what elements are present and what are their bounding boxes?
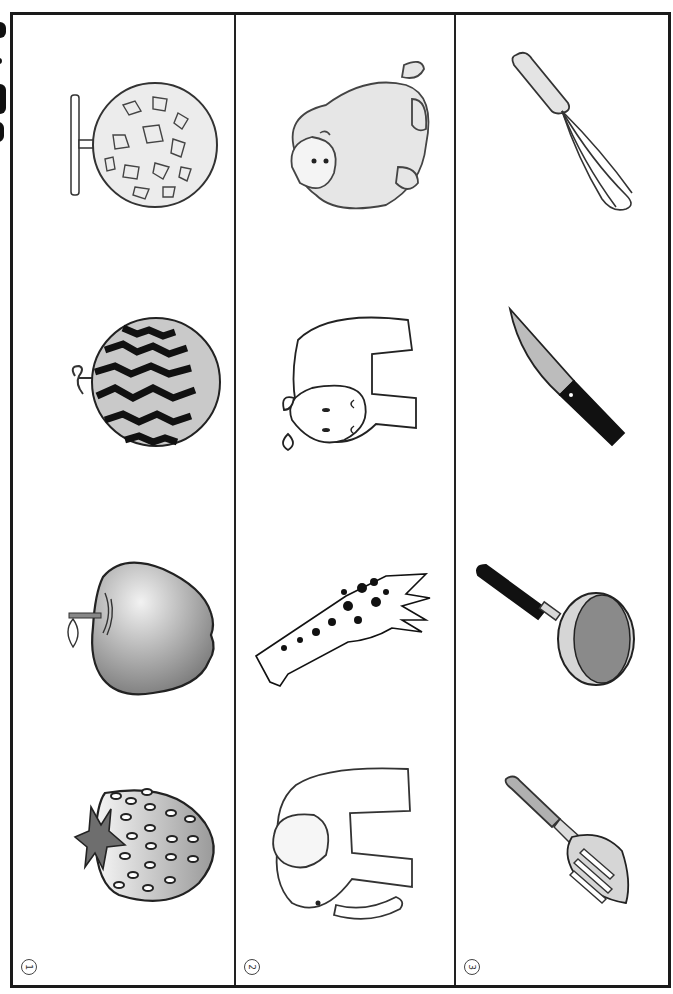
gorilla-icon: [236, 35, 455, 275]
frying-pan-picture[interactable]: [456, 525, 670, 765]
gorilla-picture[interactable]: [236, 35, 455, 275]
watermelon-picture[interactable]: [13, 270, 232, 510]
apple-picture[interactable]: [13, 515, 232, 755]
strawberry-picture[interactable]: [13, 745, 232, 985]
knife-icon: [456, 285, 670, 525]
giraffe-picture[interactable]: [236, 530, 455, 770]
column-number-3: 3: [464, 959, 480, 975]
frying-pan-icon: [456, 525, 670, 765]
column-animals: 2: [234, 15, 455, 985]
strawberry-icon: [13, 745, 232, 985]
column-fruits: 1: [13, 15, 232, 985]
column-number-2: 2: [244, 959, 260, 975]
spatula-icon: [456, 755, 670, 994]
worksheet-title-cropped: [0, 0, 10, 170]
column-number-1: 1: [21, 959, 37, 975]
column-kitchen-tools: 3: [454, 15, 670, 985]
knife-picture[interactable]: [456, 285, 670, 525]
giraffe-icon: [236, 530, 455, 770]
spatula-picture[interactable]: [456, 755, 670, 994]
whisk-icon: [456, 35, 670, 275]
whisk-picture[interactable]: [456, 35, 670, 275]
worksheet-frame: 1: [10, 12, 671, 988]
hippopotamus-picture[interactable]: [236, 270, 455, 510]
elephant-picture[interactable]: [236, 735, 455, 975]
hippopotamus-icon: [236, 270, 455, 510]
melon-picture[interactable]: [13, 35, 232, 275]
elephant-icon: [236, 735, 455, 975]
apple-icon: [13, 515, 232, 755]
melon-icon: [13, 35, 232, 275]
watermelon-icon: [13, 270, 232, 510]
